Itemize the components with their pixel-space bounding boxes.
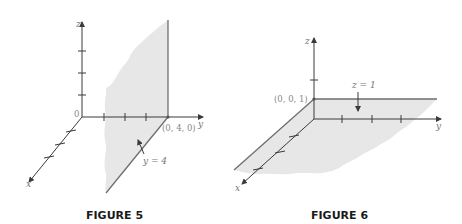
- figure-6: z y x (0, 0, 1) z = 1 FIGURE 6: [234, 36, 442, 222]
- point-label: (0, 0, 1): [274, 94, 308, 104]
- x-axis: [29, 117, 82, 182]
- x-axis-label: x: [26, 179, 31, 189]
- y-axis-label: y: [197, 119, 204, 129]
- plane-label: z = 1: [351, 80, 376, 90]
- x-axis-label: x: [235, 183, 240, 193]
- plane-y-equals-4: [104, 20, 168, 193]
- plane-label: y = 4: [142, 156, 167, 166]
- origin-label: 0: [74, 109, 79, 119]
- z-axis-label: z: [304, 36, 310, 46]
- figure-5: z 0 y x (0, 4, 0) y = 4 FIGURE 5: [26, 19, 204, 222]
- figures-canvas: z 0 y x (0, 4, 0) y = 4 FIGURE 5 z y x: [0, 0, 462, 224]
- point-label: (0, 4, 0): [162, 123, 196, 133]
- point-0-0-1: [312, 97, 315, 100]
- z-axis-label: z: [75, 19, 81, 29]
- figure-caption: FIGURE 6: [311, 209, 368, 222]
- plane-z-equals-1: [234, 99, 437, 174]
- figure-caption: FIGURE 5: [86, 209, 143, 222]
- point-0-4-0: [166, 115, 169, 118]
- y-axis-label: y: [435, 121, 442, 131]
